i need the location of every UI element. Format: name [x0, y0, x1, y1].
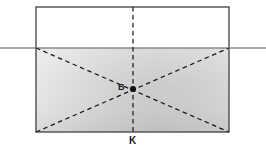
center-point-label: B	[118, 83, 125, 92]
geometric-figure: B K	[0, 0, 266, 157]
figure-canvas	[0, 0, 266, 157]
bottom-axis-label: K	[129, 136, 136, 146]
centroid-point-marker	[130, 86, 136, 92]
